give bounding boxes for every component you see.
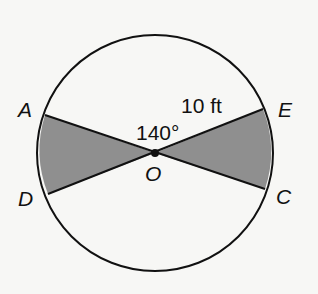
- center-label-O: O: [145, 162, 161, 185]
- angle-label: 140°: [136, 121, 179, 144]
- point-label-A: A: [16, 98, 32, 121]
- point-label-E: E: [278, 98, 293, 121]
- center-point: [151, 149, 159, 157]
- circle-diagram: A E D C O 140° 10 ft: [0, 0, 318, 294]
- radius-label: 10 ft: [181, 94, 222, 117]
- point-label-C: C: [276, 185, 292, 208]
- point-label-D: D: [18, 187, 33, 210]
